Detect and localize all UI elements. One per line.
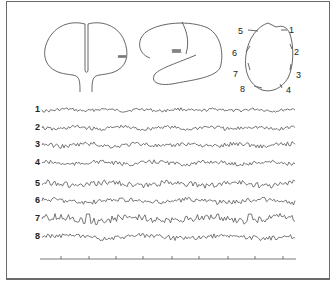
svg-text:7: 7 xyxy=(233,69,238,79)
channel-label-4: 4 xyxy=(35,158,40,167)
svg-text:1: 1 xyxy=(289,25,294,35)
svg-text:6: 6 xyxy=(232,48,237,58)
channel-label-7: 7 xyxy=(35,214,40,223)
eeg-traces xyxy=(42,108,295,241)
eeg-trace-8 xyxy=(42,233,295,240)
eeg-trace-2 xyxy=(42,125,295,131)
eeg-trace-1 xyxy=(42,108,295,113)
svg-text:2: 2 xyxy=(294,47,299,57)
electrode-map-icon xyxy=(246,23,293,91)
eeg-trace-3 xyxy=(42,142,295,149)
eeg-trace-5 xyxy=(42,180,295,188)
eeg-trace-7 xyxy=(42,214,295,225)
svg-text:4: 4 xyxy=(286,85,291,95)
channel-label-3: 3 xyxy=(35,140,40,149)
channel-label-1: 1 xyxy=(35,105,40,114)
svg-text:5: 5 xyxy=(238,26,243,36)
eeg-trace-4 xyxy=(42,160,295,166)
svg-text:8: 8 xyxy=(240,84,245,94)
lateral-brain-icon xyxy=(140,22,222,85)
svg-text:3: 3 xyxy=(296,70,301,80)
coronal-brain-icon xyxy=(45,23,127,92)
channel-label-8: 8 xyxy=(35,232,40,241)
eeg-trace-6 xyxy=(42,197,295,205)
channel-label-6: 6 xyxy=(35,196,40,205)
channel-label-2: 2 xyxy=(35,123,40,132)
time-axis xyxy=(40,256,296,259)
channel-label-5: 5 xyxy=(35,179,40,188)
figure-canvas: 51 62 73 84 xyxy=(0,0,336,283)
